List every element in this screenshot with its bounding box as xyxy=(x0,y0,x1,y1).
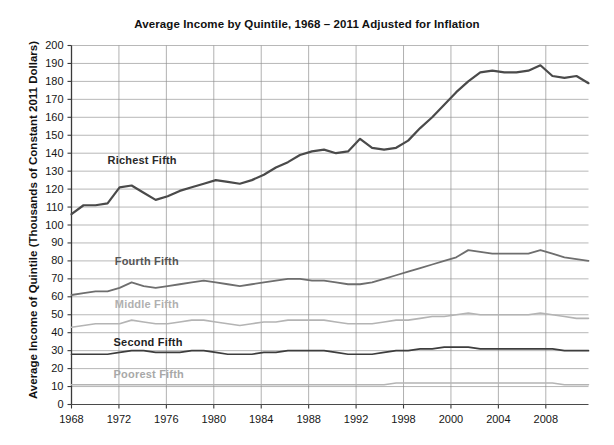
y-tick-label: 120 xyxy=(30,184,64,195)
y-tick-label: 150 xyxy=(30,130,64,141)
y-tick-label: 20 xyxy=(30,363,64,374)
y-tick-label: 180 xyxy=(30,76,64,87)
y-tick-label: 80 xyxy=(30,255,64,266)
x-tick-label: 1980 xyxy=(189,414,239,425)
series-label-poorest-fifth: Poorest Fifth xyxy=(114,368,184,380)
y-tick-label: 200 xyxy=(30,40,64,51)
y-tick-label: 170 xyxy=(30,94,64,105)
y-tick-label: 40 xyxy=(30,327,64,338)
chart-figure: Average Income by Quintile, 1968 – 2011 … xyxy=(0,0,614,445)
y-tick-label: 90 xyxy=(30,237,64,248)
x-tick-label: 1972 xyxy=(94,414,144,425)
y-tick-label: 100 xyxy=(30,220,64,231)
y-tick-label: 140 xyxy=(30,148,64,159)
x-tick-label: 2008 xyxy=(521,414,571,425)
x-tick-label: 1988 xyxy=(284,414,334,425)
x-tick-label: 2004 xyxy=(473,414,523,425)
x-tick-label: 1984 xyxy=(236,414,286,425)
y-tick-label: 110 xyxy=(30,202,64,213)
y-tick-label: 50 xyxy=(30,309,64,320)
x-tick-label: 1998 xyxy=(379,414,429,425)
y-tick-label: 0 xyxy=(30,399,64,410)
y-tick-label: 160 xyxy=(30,112,64,123)
x-tick-label: 1968 xyxy=(47,414,97,425)
x-tick-label: 1992 xyxy=(331,414,381,425)
x-tick-label: 2000 xyxy=(426,414,476,425)
series-label-richest-fifth: Richest Fifth xyxy=(108,154,177,166)
series-label-middle-fifth: Middle Fifth xyxy=(115,298,179,310)
series-line-poorest-fifth xyxy=(72,383,589,385)
y-tick-label: 30 xyxy=(30,345,64,356)
y-tick-label: 60 xyxy=(30,291,64,302)
series-label-second-fifth: Second Fifth xyxy=(114,336,183,348)
x-tick-label: 1976 xyxy=(141,414,191,425)
plot-area xyxy=(0,0,614,445)
y-tick-label: 130 xyxy=(30,166,64,177)
y-tick-label: 70 xyxy=(30,273,64,284)
series-label-fourth-fifth: Fourth Fifth xyxy=(115,255,179,267)
series-line-richest-fifth xyxy=(72,65,589,214)
y-tick-label: 190 xyxy=(30,58,64,69)
y-tick-label: 10 xyxy=(30,381,64,392)
series-line-middle-fifth xyxy=(72,313,589,327)
